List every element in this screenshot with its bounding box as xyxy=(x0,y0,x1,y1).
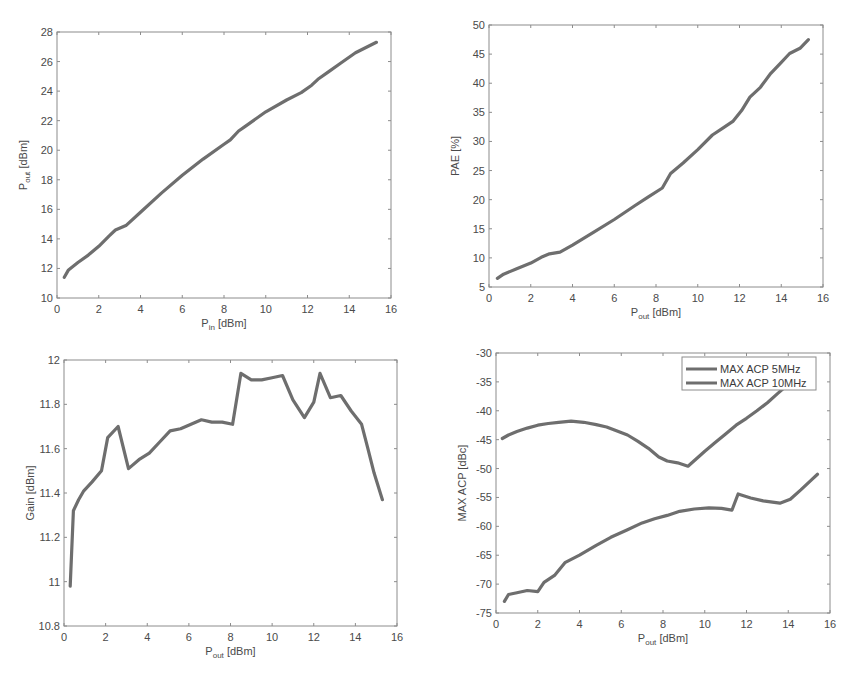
x-tick-label: 14 xyxy=(782,618,794,630)
y-tick-label: 15 xyxy=(473,223,485,235)
y-tick-label: 50 xyxy=(473,19,485,31)
axis-ticks: 024681012141610121416182022242628 xyxy=(41,26,397,315)
pout-curve xyxy=(64,42,376,277)
y-tick-label: 11.6 xyxy=(39,443,60,455)
x-tick-label: 14 xyxy=(343,303,355,315)
x-tick-label: 10 xyxy=(699,618,711,630)
y-tick-label: 11.2 xyxy=(39,531,60,543)
x-tick-label: 0 xyxy=(486,292,492,304)
y-tick-label: -35 xyxy=(476,376,492,388)
y-tick-label: -50 xyxy=(476,463,492,475)
y-tick-label: 22 xyxy=(41,115,53,127)
x-axis-label: Pout [dBm] xyxy=(638,632,688,647)
x-tick-label: 14 xyxy=(775,292,787,304)
x-tick-label: 16 xyxy=(391,631,403,643)
x-tick-label: 2 xyxy=(96,303,102,315)
y-tick-label: 25 xyxy=(473,165,485,177)
legend-label-5mhz: MAX ACP 5MHz xyxy=(720,363,801,375)
y-tick-label: 10 xyxy=(473,252,485,264)
chart-pout-vs-pin: 024681012141610121416182022242628 Pin [d… xyxy=(17,26,397,332)
x-tick-label: 8 xyxy=(221,303,227,315)
x-tick-label: 14 xyxy=(349,631,361,643)
x-tick-label: 4 xyxy=(137,303,143,315)
y-tick-label: 40 xyxy=(473,77,485,89)
x-tick-label: 0 xyxy=(54,303,60,315)
x-tick-label: 16 xyxy=(817,292,829,304)
y-tick-label: -45 xyxy=(476,434,492,446)
y-tick-label: -55 xyxy=(476,491,492,503)
chart-acp-vs-pout: 0246810121416-75-70-65-60-55-50-45-40-35… xyxy=(456,347,836,647)
plot-frame xyxy=(64,360,397,626)
y-tick-label: -40 xyxy=(476,405,492,417)
y-tick-label: 12 xyxy=(41,262,53,274)
y-tick-label: -60 xyxy=(476,520,492,532)
x-tick-label: 6 xyxy=(186,631,192,643)
legend-label-10mhz: MAX ACP 10MHz xyxy=(720,377,807,389)
pae-curve xyxy=(497,40,808,279)
axis-ticks: 02468101214165101520253035404550 xyxy=(473,19,829,304)
y-tick-label: 45 xyxy=(473,48,485,60)
x-tick-label: 6 xyxy=(611,292,617,304)
x-tick-label: 12 xyxy=(308,631,320,643)
gain-curve xyxy=(70,373,382,586)
y-tick-label: 24 xyxy=(41,85,53,97)
x-tick-label: 10 xyxy=(692,292,704,304)
x-axis-label: Pin [dBm] xyxy=(201,317,246,332)
y-tick-label: 11.8 xyxy=(39,398,60,410)
y-tick-label: 20 xyxy=(41,144,53,156)
x-tick-label: 8 xyxy=(653,292,659,304)
x-axis-label: Pout [dBm] xyxy=(631,306,681,321)
y-tick-label: 12 xyxy=(48,354,60,366)
y-tick-label: 26 xyxy=(41,56,53,68)
x-tick-label: 6 xyxy=(618,618,624,630)
y-tick-label: 10.8 xyxy=(39,620,60,632)
y-tick-label: -70 xyxy=(476,578,492,590)
x-axis-label: Pout [dBm] xyxy=(205,645,255,660)
y-tick-label: 5 xyxy=(479,281,485,293)
x-tick-label: 12 xyxy=(740,618,752,630)
x-tick-label: 16 xyxy=(385,303,397,315)
x-tick-label: 4 xyxy=(576,618,582,630)
legend: MAX ACP 5MHz MAX ACP 10MHz xyxy=(682,357,816,390)
y-axis-label: PAE [%] xyxy=(449,136,461,176)
x-tick-label: 8 xyxy=(227,631,233,643)
y-axis-label: Gain [dBm] xyxy=(24,465,36,520)
y-tick-label: 10 xyxy=(41,292,53,304)
y-tick-label: 30 xyxy=(473,135,485,147)
y-tick-label: 20 xyxy=(473,194,485,206)
chart-pae-vs-pout: 02468101214165101520253035404550 Pout [d… xyxy=(449,19,829,321)
y-tick-label: -75 xyxy=(476,607,492,619)
x-tick-label: 2 xyxy=(535,618,541,630)
x-tick-label: 12 xyxy=(733,292,745,304)
plot-frame xyxy=(489,25,823,287)
x-tick-label: 8 xyxy=(660,618,666,630)
y-tick-label: 35 xyxy=(473,106,485,118)
x-tick-label: 10 xyxy=(260,303,272,315)
y-tick-label: 11 xyxy=(49,576,60,588)
y-tick-label: 14 xyxy=(41,233,53,245)
y-axis-label: Pout [dBm] xyxy=(17,140,32,190)
figure-canvas: 024681012141610121416182022242628 Pin [d… xyxy=(0,0,849,678)
chart-gain-vs-pout: 024681012141610.81111.211.411.611.812 Po… xyxy=(24,354,403,660)
plot-frame xyxy=(57,32,391,298)
y-tick-label: 11.4 xyxy=(39,487,60,499)
x-tick-label: 4 xyxy=(569,292,575,304)
x-tick-label: 0 xyxy=(61,631,67,643)
x-tick-label: 4 xyxy=(144,631,150,643)
x-tick-label: 2 xyxy=(528,292,534,304)
x-tick-label: 12 xyxy=(301,303,313,315)
y-axis-label: MAX ACP [dBc] xyxy=(456,445,468,522)
axis-ticks: 024681012141610.81111.211.411.611.812 xyxy=(39,354,404,643)
x-tick-label: 16 xyxy=(824,618,836,630)
y-tick-label: -30 xyxy=(476,347,492,359)
acp-10mhz-curve xyxy=(504,474,817,601)
y-tick-label: 18 xyxy=(41,174,53,186)
x-tick-label: 2 xyxy=(103,631,109,643)
x-tick-label: 0 xyxy=(493,618,499,630)
x-tick-label: 6 xyxy=(179,303,185,315)
y-tick-label: -65 xyxy=(476,549,492,561)
x-tick-label: 10 xyxy=(266,631,278,643)
y-tick-label: 16 xyxy=(41,203,53,215)
y-tick-label: 28 xyxy=(41,26,53,38)
